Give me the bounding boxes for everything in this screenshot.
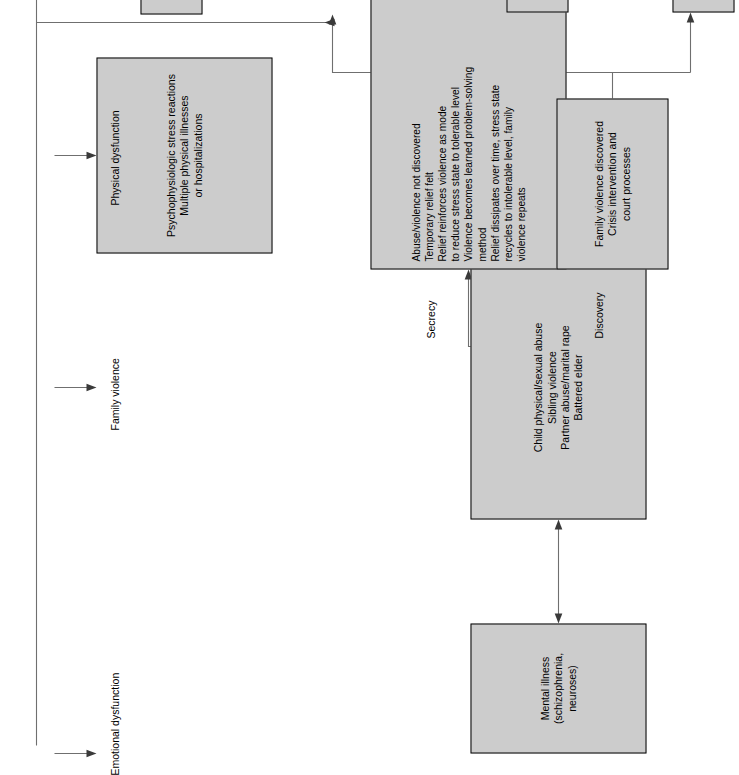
box-mental-illness[interactable]: Mental illness (schizophrenia, neuroses) xyxy=(470,623,646,753)
label-physical-dysfunction: Physical dysfunction xyxy=(108,110,120,205)
box-family-violence-types[interactable]: Child physical/sexual abuse Sibling viol… xyxy=(470,255,646,519)
box-no-intervention[interactable]: No intervention (for example, case unfou… xyxy=(140,0,202,14)
box-prison[interactable]: Prison xyxy=(672,0,734,12)
label-discovery: Discovery xyxy=(592,292,604,338)
box-therapy[interactable]: Therapy xyxy=(506,0,568,12)
label-emotional-dysfunction: Emotional dysfunction xyxy=(108,672,120,775)
box-physical-consequences[interactable]: Psychophysiologic stress reactions Multi… xyxy=(96,57,272,253)
label-family-violence: Family violence xyxy=(108,358,120,430)
box-abuse-not-discovered[interactable]: Abuse/violence not discovered Temporary … xyxy=(370,0,566,269)
box-family-violence-discovered[interactable]: Family violence discovered Crisis interv… xyxy=(556,98,668,269)
label-secrecy: Secrecy xyxy=(424,300,436,338)
